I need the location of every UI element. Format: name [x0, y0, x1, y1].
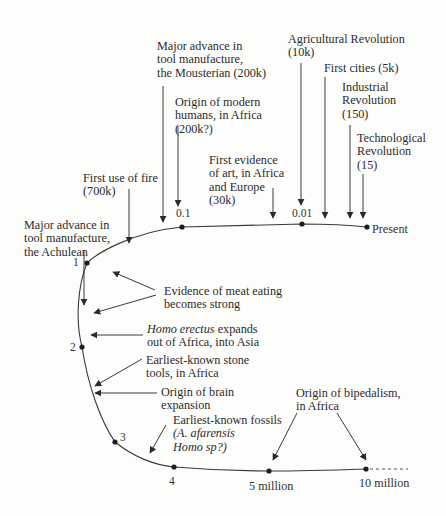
- tick-0-1: 0.1: [176, 207, 190, 219]
- label-first-cities: First cities (5k): [324, 62, 398, 75]
- arrow-meat-2: [94, 295, 156, 313]
- label-technological-revolution: Technological Revolution (15): [357, 132, 426, 172]
- label-agricultural-revolution: Agricultural Revolution (10k): [288, 33, 405, 60]
- tick-3: 3: [120, 431, 126, 443]
- label-earliest-fossils: Earliest-known fossils (A. afarensis Hom…: [173, 414, 282, 454]
- human-evolution-timeline-diagram: 0.1 0.01 Present 1 2 3 4 5 million 10 mi…: [0, 0, 446, 516]
- label-first-fire: First use of fire (700k): [83, 172, 158, 199]
- label-brain-expansion: Origin of brain expansion: [161, 386, 234, 413]
- label-stone-tools: Earliest-known stone tools, in Africa: [146, 354, 249, 381]
- label-achulean: Major advance in tool manufacture, the A…: [24, 219, 110, 259]
- tick-present: Present: [372, 223, 408, 235]
- arrow-meat-1: [113, 272, 155, 290]
- arrow-stone-tools: [95, 359, 142, 386]
- tick-10-million: 10 million: [359, 477, 409, 489]
- tick-0-01: 0.01: [292, 207, 312, 219]
- label-mousterian: Major advance in tool manufacture, the M…: [157, 40, 266, 80]
- label-homo-erectus: Homo erectus expands out of Africa, into…: [147, 323, 259, 350]
- label-modern-humans: Origin of modern humans, in Africa (200k…: [175, 96, 262, 136]
- label-bipedalism: Origin of bipedalism, in Africa: [296, 387, 401, 414]
- tick-5-million: 5 million: [249, 480, 293, 492]
- arrow-fossils: [150, 425, 166, 453]
- label-meat-eating: Evidence of meat eating becomes strong: [164, 285, 282, 312]
- label-industrial-revolution: Industrial Revolution (150): [342, 81, 396, 121]
- tick-4: 4: [169, 475, 175, 487]
- tick-2: 2: [70, 341, 76, 353]
- arrow-bipedalism-2: [337, 413, 366, 460]
- label-first-art: First evidence of art, in Africa and Eur…: [209, 154, 284, 208]
